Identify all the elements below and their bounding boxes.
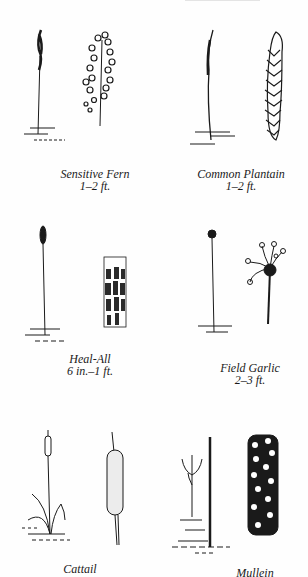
caption-cattail: Cattail (40, 563, 120, 575)
caption-mullein: Mullein (215, 567, 295, 577)
caption-heal-all: Heal-All 6 in.–1 ft. (40, 353, 140, 377)
plate-mullein (170, 425, 308, 560)
plate-field-garlic (170, 228, 308, 348)
sensitive-fern-illustration (20, 30, 160, 160)
plant-height: 1–2 ft. (40, 180, 150, 192)
plate-heal-all (20, 225, 160, 345)
caption-sensitive-fern: Sensitive Fern 1–2 ft. (40, 168, 150, 192)
heal-all-illustration (20, 225, 160, 345)
plant-height: 2–3 ft. (200, 374, 300, 386)
caption-field-garlic: Field Garlic 2–3 ft. (200, 362, 300, 386)
plant-name: Cattail (40, 563, 120, 575)
field-garlic-illustration (170, 228, 308, 348)
mullein-illustration (170, 425, 308, 560)
plate-sensitive-fern (20, 30, 160, 160)
plant-name: Mullein (215, 567, 295, 577)
plant-height: 6 in.–1 ft. (40, 365, 140, 377)
common-plantain-illustration (170, 30, 308, 160)
plate-cattail (20, 430, 160, 555)
book-page: Sensitive Fern 1–2 ft. Common Plantain 1… (0, 0, 308, 577)
plant-height: 1–2 ft. (185, 180, 297, 192)
plate-common-plantain (170, 30, 308, 160)
caption-common-plantain: Common Plantain 1–2 ft. (185, 168, 297, 192)
cattail-illustration (20, 430, 160, 555)
cropped-header-fragment (185, 0, 260, 3)
